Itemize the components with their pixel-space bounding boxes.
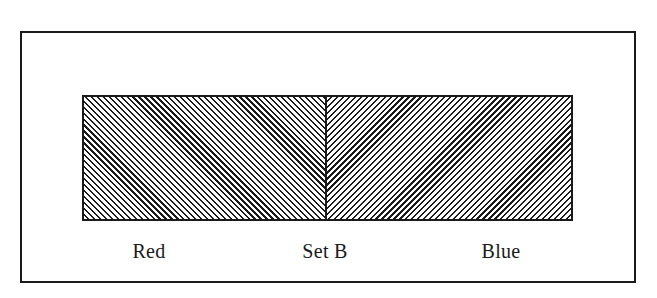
red-label: Red [132,239,165,263]
blue-label: Blue [482,239,521,263]
set-b-label: Set B [302,239,347,263]
set-b-rectangle [82,95,573,221]
blue-region-hatched [327,97,571,219]
red-region-hatched [84,97,327,219]
